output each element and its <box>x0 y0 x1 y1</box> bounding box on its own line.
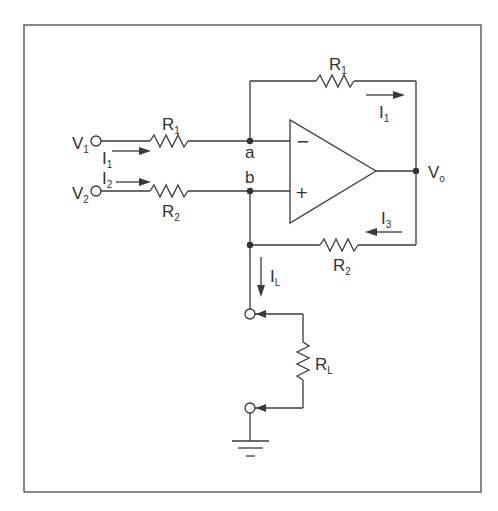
terminal-load-bottom <box>245 403 255 413</box>
label-i1-input: I1 <box>102 149 113 170</box>
label-r1-input: R1 <box>162 115 180 136</box>
label-i3: I3 <box>381 209 392 230</box>
arrow-i1-input <box>112 147 151 155</box>
node-b-dot <box>247 188 253 194</box>
label-i1-feedback: I1 <box>379 103 390 124</box>
resistor-r2-input <box>150 185 188 197</box>
input-v1-branch <box>91 135 250 147</box>
ground-icon <box>232 441 269 456</box>
diagram-frame <box>24 25 481 492</box>
terminal-v1 <box>91 136 101 146</box>
load-node-dot <box>247 242 253 248</box>
load-branch <box>245 245 309 441</box>
output-node-dot <box>413 168 419 174</box>
arrow-i2 <box>116 178 151 186</box>
label-vo: Vo <box>428 163 445 184</box>
opamp-noninverting-sign: + <box>295 183 308 202</box>
terminal-load-top <box>245 309 255 319</box>
label-v1: V1 <box>72 134 89 155</box>
label-i2: I2 <box>102 169 113 190</box>
resistor-rl <box>297 342 309 380</box>
arrow-i3 <box>365 228 402 236</box>
input-v2-branch <box>91 185 250 197</box>
label-il: IL <box>270 267 281 288</box>
resistor-r1-feedback <box>316 75 354 87</box>
label-node-a: a <box>245 143 255 162</box>
label-v2: V2 <box>72 184 89 205</box>
label-r1-feedback: R1 <box>329 55 347 76</box>
label-node-b: b <box>245 168 254 187</box>
resistor-r2-feedback <box>320 239 358 251</box>
resistor-r1-input <box>150 135 188 147</box>
arrow-i1-feedback <box>366 91 405 99</box>
label-r2-input: R2 <box>162 202 180 223</box>
circuit-diagram: V1 V2 Vo R1 R2 R1 R2 RL I1 I2 I1 I3 IL a… <box>0 0 498 511</box>
label-rl: RL <box>315 355 333 376</box>
opamp-inverting-sign: − <box>296 132 309 151</box>
arrow-il <box>257 257 265 297</box>
terminal-v2 <box>91 186 101 196</box>
label-r2-feedback: R2 <box>333 256 351 277</box>
